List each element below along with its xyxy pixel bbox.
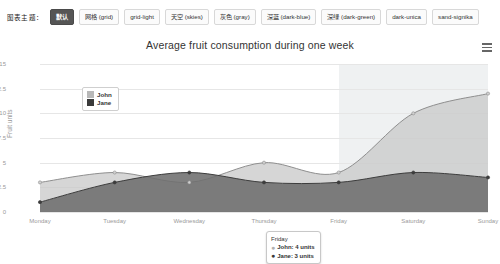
- legend-label-jane: Jane: [97, 99, 111, 107]
- theme-toolbar: 图表主题： 默认 网格 (grid) grid-light 天空 (skies)…: [0, 0, 500, 34]
- legend-swatch-jane: [87, 99, 94, 106]
- data-point[interactable]: [38, 201, 41, 204]
- tooltip-header: Friday: [271, 235, 315, 243]
- data-point[interactable]: [113, 181, 116, 184]
- x-axis-tick-label: Wednesday: [174, 218, 206, 224]
- tooltip-bullet-john: ●: [271, 244, 275, 251]
- chart-container: Average fruit consumption during one wee…: [0, 34, 500, 245]
- chart-legend: John Jane: [82, 87, 119, 111]
- tooltip-row-jane: ● Jane: 3 units: [271, 252, 315, 260]
- y-axis-tick-label: 15: [0, 61, 6, 67]
- data-point[interactable]: [262, 181, 265, 184]
- y-axis-tick-label: 12.5: [0, 86, 6, 92]
- y-axis-tick-label: 7.5: [0, 135, 6, 141]
- theme-button-grid-light[interactable]: grid-light: [124, 9, 160, 24]
- theme-button-grid[interactable]: 网格 (grid): [79, 9, 119, 24]
- theme-button-skies[interactable]: 天空 (skies): [165, 9, 209, 24]
- x-axis-tick-label: Saturday: [401, 218, 425, 224]
- chart-title: Average fruit consumption during one wee…: [0, 39, 500, 51]
- legend-label-john: John: [97, 91, 112, 99]
- chart-tooltip: Friday ● John: 4 units ● Jane: 3 units: [266, 231, 321, 264]
- data-point[interactable]: [337, 181, 340, 184]
- theme-button-default[interactable]: 默认: [50, 9, 74, 24]
- data-point[interactable]: [38, 181, 41, 184]
- gridline: [40, 212, 488, 213]
- theme-button-dark-blue[interactable]: 深蓝 (dark-blue): [261, 9, 317, 24]
- tooltip-text-john: John: 4 units: [277, 243, 314, 251]
- theme-button-gray[interactable]: 灰色 (gray): [214, 9, 256, 24]
- data-point[interactable]: [412, 171, 415, 174]
- data-point[interactable]: [113, 171, 116, 174]
- tooltip-text-jane: Jane: 3 units: [277, 252, 314, 260]
- data-point[interactable]: [486, 92, 489, 95]
- hamburger-menu-icon[interactable]: [480, 41, 494, 54]
- y-axis-title: Fruit units: [6, 109, 13, 138]
- data-point[interactable]: [486, 176, 489, 179]
- data-point[interactable]: [262, 161, 265, 164]
- tooltip-row-john: ● John: 4 units: [271, 243, 315, 251]
- legend-item-john[interactable]: John: [87, 91, 112, 99]
- legend-swatch-john: [87, 91, 94, 98]
- theme-button-dark-unica[interactable]: dark-unica: [386, 9, 427, 24]
- legend-item-jane[interactable]: Jane: [87, 99, 112, 107]
- y-axis-tick-label: 10: [0, 110, 6, 116]
- theme-toolbar-label: 图表主题：: [7, 12, 45, 22]
- data-point[interactable]: [188, 181, 191, 184]
- y-axis-tick-label: 2.5: [0, 184, 6, 190]
- x-axis-tick-label: Friday: [330, 218, 347, 224]
- x-axis-tick-label: Monday: [29, 218, 50, 224]
- data-point[interactable]: [188, 171, 191, 174]
- y-axis-tick-label: 5: [0, 160, 6, 166]
- y-axis-tick-label: 0: [0, 209, 6, 215]
- theme-button-dark-green[interactable]: 深绿 (dark-green): [321, 9, 381, 24]
- data-point[interactable]: [337, 171, 340, 174]
- data-point[interactable]: [412, 112, 415, 115]
- x-axis-tick-label: Sunday: [478, 218, 498, 224]
- theme-button-sand-signika[interactable]: sand-signika: [432, 9, 479, 24]
- tooltip-bullet-jane: ●: [271, 252, 275, 259]
- x-axis-tick-label: Thursday: [251, 218, 276, 224]
- x-axis-tick-label: Tuesday: [103, 218, 126, 224]
